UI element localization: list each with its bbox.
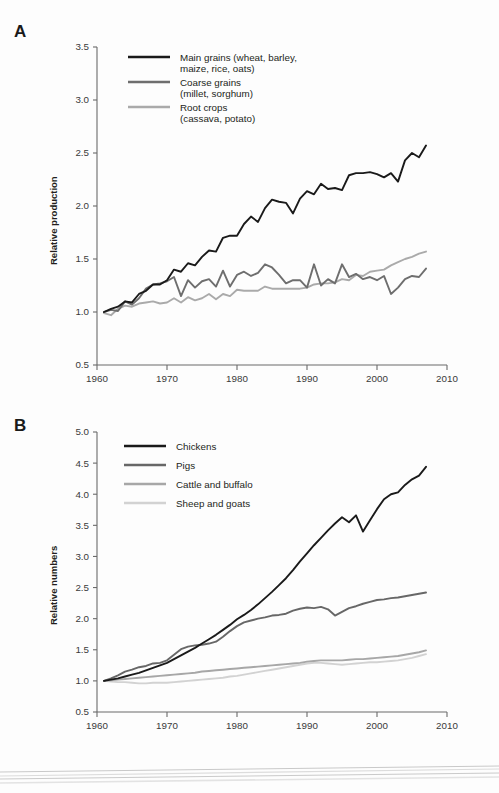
panel-b-x-tick-label: 1960	[86, 720, 108, 731]
panel-a-legend-label: Main grains (wheat, barley,	[180, 52, 297, 63]
panel-b-series-line	[104, 650, 426, 680]
panel-b-plot: 0.51.01.52.02.53.03.54.04.55.01960197019…	[0, 400, 499, 760]
panel-b: B Relative numbers 0.51.01.52.02.53.03.5…	[0, 400, 499, 760]
panel-a: A Relative production 0.51.01.52.02.53.0…	[0, 0, 499, 400]
panel-a-y-tick-label: 1.5	[75, 253, 89, 264]
panel-b-y-tick-label: 0.5	[75, 706, 89, 717]
panel-b-legend-label: Cattle and buffalo	[176, 479, 253, 490]
panel-b-legend-label: Sheep and goats	[176, 498, 250, 509]
panel-a-y-tick-label: 0.5	[75, 359, 89, 370]
panel-a-x-tick-label: 1990	[296, 373, 318, 384]
panel-b-x-tick-label: 2000	[366, 720, 388, 731]
panel-b-legend-label: Chickens	[176, 441, 216, 452]
panel-b-x-tick-label: 1980	[226, 720, 248, 731]
panel-a-y-tick-label: 3.5	[75, 41, 89, 52]
figure-container: A Relative production 0.51.01.52.02.53.0…	[0, 0, 499, 793]
panel-a-series-line	[104, 252, 426, 316]
panel-b-y-tick-label: 2.0	[75, 613, 89, 624]
panel-a-y-tick-label: 2.0	[75, 200, 89, 211]
panel-a-x-tick-label: 2000	[366, 373, 388, 384]
panel-b-y-tick-label: 3.0	[75, 551, 89, 562]
panel-b-x-tick-label: 1990	[296, 720, 318, 731]
panel-b-x-tick-label: 1970	[156, 720, 178, 731]
panel-a-x-tick-label: 1960	[86, 373, 108, 384]
panel-b-y-tick-label: 4.0	[75, 489, 89, 500]
panel-a-legend-label: Coarse grains	[180, 77, 241, 88]
panel-b-y-tick-label: 1.0	[75, 675, 89, 686]
panel-b-legend-label: Pigs	[176, 460, 195, 471]
panel-a-x-tick-label: 2010	[436, 373, 458, 384]
panel-a-legend-label: (cassava, potato)	[180, 113, 255, 124]
panel-a-legend-label: (millet, sorghum)	[180, 88, 253, 99]
panel-b-y-tick-label: 5.0	[75, 426, 89, 437]
panel-a-x-tick-label: 1980	[226, 373, 248, 384]
panel-b-y-tick-label: 1.5	[75, 644, 89, 655]
panel-b-series-line	[104, 467, 426, 681]
panel-a-y-tick-label: 2.5	[75, 147, 89, 158]
panel-a-legend-label: maize, rice, oats)	[180, 63, 255, 74]
panel-b-x-tick-label: 2010	[436, 720, 458, 731]
panel-a-x-tick-label: 1970	[156, 373, 178, 384]
panel-b-y-tick-label: 4.5	[75, 458, 89, 469]
panel-a-y-tick-label: 1.0	[75, 306, 89, 317]
panel-b-y-tick-label: 2.5	[75, 582, 89, 593]
panel-b-y-tick-label: 3.5	[75, 520, 89, 531]
panel-a-plot: 0.51.01.52.02.53.03.51960197019801990200…	[0, 0, 499, 400]
panel-a-y-tick-label: 3.0	[75, 94, 89, 105]
page-scan-edge	[0, 760, 499, 793]
panel-a-legend-label: Root crops	[180, 102, 227, 113]
